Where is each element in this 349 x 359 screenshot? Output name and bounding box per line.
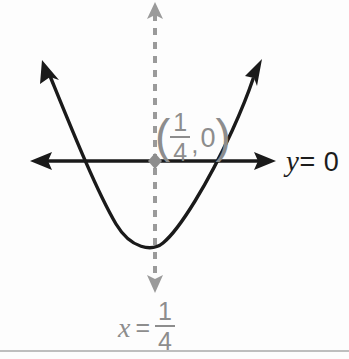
axis-of-symmetry-label: x = 1 4 <box>118 299 175 354</box>
point-comma-text: , <box>190 131 200 157</box>
horizontal-axis-equation-label: y= 0 <box>286 147 339 176</box>
axis-fraction-denominator: 4 <box>155 327 175 354</box>
parabola-left-arrowhead <box>40 60 59 84</box>
point-y-coordinate-text: 0 <box>200 125 215 152</box>
x-variable-text: x <box>118 314 130 342</box>
y-variable-text: y <box>286 145 299 177</box>
axis-fraction: 1 4 <box>155 299 175 354</box>
dashed-line-down-arrowhead <box>147 275 163 293</box>
point-fraction: 1 4 <box>170 110 190 165</box>
close-paren-text: ) <box>216 118 231 156</box>
open-paren-text: ( <box>155 118 170 156</box>
axis-fraction-numerator: 1 <box>155 299 175 325</box>
point-fraction-denominator: 4 <box>170 138 190 165</box>
parabola-figure: y= 0 ( 1 4 , 0 ) x = 1 4 <box>0 0 349 359</box>
vertex-point-label: ( 1 4 , 0 ) <box>155 110 231 165</box>
point-fraction-numerator: 1 <box>170 110 190 136</box>
axis-equals-sign-text: = <box>130 315 155 340</box>
y-equals-zero-text: = 0 <box>299 147 339 177</box>
